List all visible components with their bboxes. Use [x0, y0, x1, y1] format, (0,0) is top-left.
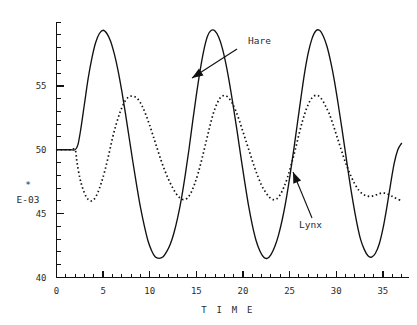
annotation-arrow-head — [293, 172, 301, 184]
y-tick-label: 45 — [36, 209, 47, 219]
plot-axes — [57, 22, 410, 278]
y-tick-label: 40 — [36, 273, 47, 283]
annotation-label-lynx: Lynx — [299, 219, 322, 230]
y-axis-scale-marker: * — [25, 179, 31, 190]
x-tick-label: 5 — [100, 286, 105, 296]
annotation-arrow-head — [192, 69, 204, 78]
y-axis-scale-exponent: E-03 — [17, 194, 40, 205]
x-tick-label: 20 — [238, 286, 249, 296]
annotation-hare: Hare — [192, 35, 271, 78]
series-line-hare — [57, 30, 402, 259]
chart-figure: 40455055 05101520253035 * E-03 T I M E H… — [0, 0, 417, 325]
x-axis-tick-labels: 05101520253035 — [54, 286, 389, 296]
y-tick-label: 50 — [36, 145, 47, 155]
annotation-lynx: Lynx — [293, 172, 322, 230]
x-tick-label: 15 — [191, 286, 202, 296]
predator-prey-line-chart: 40455055 05101520253035 * E-03 T I M E H… — [0, 0, 417, 325]
annotation-label-hare: Hare — [248, 35, 271, 46]
x-tick-label: 35 — [377, 286, 388, 296]
x-tick-label: 30 — [331, 286, 342, 296]
x-tick-label: 25 — [284, 286, 295, 296]
x-tick-label: 10 — [144, 286, 155, 296]
y-axis-tick-labels: 40455055 — [36, 81, 47, 283]
y-tick-label: 55 — [36, 81, 47, 91]
x-tick-label: 0 — [54, 286, 59, 296]
x-axis-title: T I M E — [201, 305, 254, 315]
series-annotations: HareLynx — [192, 35, 322, 230]
x-axis-ticks — [57, 271, 402, 278]
